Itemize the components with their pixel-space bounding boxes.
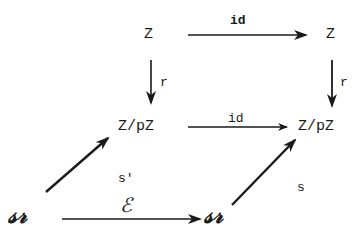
diagram-arrows: Z --> Z/pZ --> Z/pZ --> Z/pZ --> Z/pZ --… [0,0,359,233]
node-top-left-Z: Z [144,27,153,43]
label-middle-id: id [228,112,244,126]
label-bottom-epsilon: ℰ [120,195,132,215]
label-right-diagonal-s: s [297,181,305,195]
node-bottom-left-script: 𝓈𝓇 [8,203,27,227]
node-mid-right-ZpZ: Z/pZ [298,119,334,135]
label-top-id: id [230,14,246,28]
node-bottom-left-label: 𝓈𝓇 [8,200,27,229]
node-bottom-right-label: 𝓈𝓇 [204,200,223,229]
label-left-r: r [160,76,168,90]
label-left-diagonal-s-prime: s' [118,172,134,186]
node-top-right-Z: Z [326,27,335,43]
label-right-r: r [340,76,348,90]
node-bottom-right-script: 𝓈𝓇 [204,203,223,227]
node-mid-left-ZpZ: Z/pZ [118,119,154,135]
arrow-left-diagonal [46,138,108,192]
arrow-right-diagonal [232,140,295,205]
